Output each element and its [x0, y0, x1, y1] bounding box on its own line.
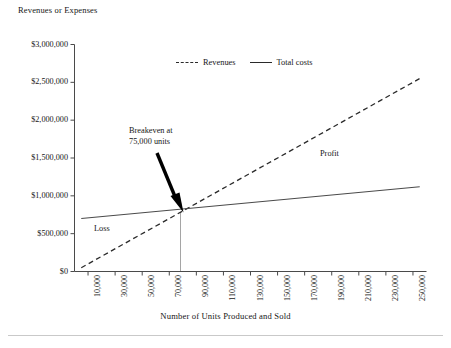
y-axis-ticks [71, 45, 75, 272]
series-line-total-costs [81, 187, 419, 219]
breakeven-chart: Revenues or Expenses $0$500,000$1,000,00… [0, 0, 451, 348]
legend-label-total-costs: Total costs [277, 58, 313, 67]
x-tick-label: 110,000 [228, 275, 237, 301]
x-tick-label: 190,000 [336, 275, 345, 301]
y-tick-label: $2,500,000 [8, 77, 68, 86]
bottom-divider [8, 335, 443, 336]
annotation-breakeven-line1: Breakeven at [129, 126, 173, 137]
legend-item-revenues: Revenues [176, 58, 236, 67]
chart-legend: Revenues Total costs [176, 58, 313, 67]
annotation-loss: Loss [94, 224, 110, 235]
x-tick-label: 130,000 [255, 275, 264, 301]
x-axis-title: Number of Units Produced and Sold [0, 311, 451, 321]
x-tick-label: 50,000 [147, 275, 156, 297]
legend-item-total-costs: Total costs [250, 58, 313, 67]
series-lines [81, 79, 419, 268]
x-tick-label: 30,000 [120, 275, 129, 297]
y-tick-label: $1,000,000 [8, 191, 68, 200]
dashed-line-icon [176, 59, 198, 66]
series-line-revenues [81, 79, 419, 268]
x-tick-label: 250,000 [417, 275, 426, 301]
x-tick-label: 10,000 [93, 275, 102, 297]
x-tick-label: 70,000 [174, 275, 183, 297]
y-tick-label: $0 [8, 267, 68, 276]
x-tick-label: 150,000 [282, 275, 291, 301]
y-tick-label: $2,000,000 [8, 115, 68, 124]
x-tick-label: 210,000 [363, 275, 372, 301]
annotation-breakeven: Breakeven at 75,000 units [129, 126, 173, 147]
breakeven-arrow-icon [157, 153, 184, 213]
x-tick-label: 90,000 [201, 275, 210, 297]
legend-label-revenues: Revenues [203, 58, 236, 67]
x-tick-label: 170,000 [309, 275, 318, 301]
plot-area [0, 0, 451, 348]
y-tick-label: $500,000 [8, 229, 68, 238]
annotation-profit: Profit [320, 149, 339, 160]
x-tick-label: 230,000 [390, 275, 399, 301]
annotation-breakeven-line2: 75,000 units [129, 137, 173, 148]
y-tick-label: $3,000,000 [8, 40, 68, 49]
y-tick-label: $1,500,000 [8, 153, 68, 162]
solid-line-icon [250, 59, 272, 66]
